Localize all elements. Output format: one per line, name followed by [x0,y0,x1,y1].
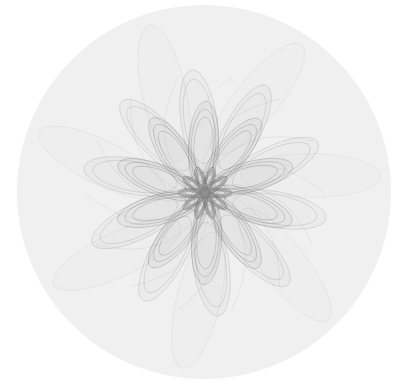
spirograph-flower-art [0,0,399,388]
flower-core [199,187,211,199]
